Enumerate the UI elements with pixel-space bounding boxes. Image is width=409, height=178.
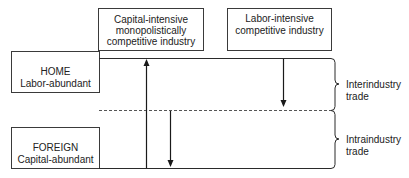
home-country-box: HOME Labor-abundant xyxy=(12,52,100,93)
intraindustry-brace xyxy=(331,111,339,169)
capital-box-line-2: monopolistically xyxy=(116,25,187,36)
foreign-country-endowment: Capital-abundant xyxy=(17,154,93,165)
interindustry-brace xyxy=(331,59,339,111)
capital-intensive-industry-box: Capital-intensive monopolistically compe… xyxy=(99,9,204,51)
intraindustry-trade-label: Intraindustry trade xyxy=(346,134,401,157)
capital-goods-import-arrow xyxy=(168,111,174,167)
labor-goods-export-arrow xyxy=(281,59,287,107)
capital-goods-export-arrow xyxy=(144,59,150,168)
foreign-country-box: FOREIGN Capital-abundant xyxy=(12,128,100,169)
interindustry-label-line-1: Interindustry xyxy=(346,79,401,90)
arrow-up-icon xyxy=(144,59,150,66)
trade-diagram: Capital-intensive monopolistically compe… xyxy=(0,0,409,178)
foreign-country-name: FOREIGN xyxy=(33,142,79,153)
home-country-endowment: Labor-abundant xyxy=(20,78,91,89)
capital-box-line-1: Capital-intensive xyxy=(114,14,188,25)
interindustry-label-line-2: trade xyxy=(346,91,369,102)
labor-box-line-2: competitive industry xyxy=(235,25,323,36)
capital-box-line-3: competitive industry xyxy=(107,36,195,47)
arrow-down-icon xyxy=(281,100,287,107)
intraindustry-label-line-2: trade xyxy=(346,146,369,157)
interindustry-trade-label: Interindustry trade xyxy=(346,79,401,102)
arrow-down-icon xyxy=(168,160,174,167)
labor-box-line-1: Labor-intensive xyxy=(245,13,314,24)
home-country-name: HOME xyxy=(41,66,71,77)
intraindustry-label-line-1: Intraindustry xyxy=(346,134,401,145)
labor-intensive-industry-box: Labor-intensive competitive industry xyxy=(228,9,332,51)
